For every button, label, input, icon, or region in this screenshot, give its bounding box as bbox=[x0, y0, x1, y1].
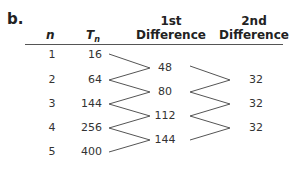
difference-connector-lines bbox=[0, 0, 303, 170]
